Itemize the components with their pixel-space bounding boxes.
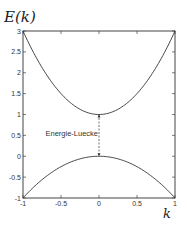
y-tick-label: 2.5	[11, 48, 21, 55]
y-tick-label: 0	[17, 153, 21, 160]
band-structure-chart: E(k) -1-0.500.51-1-0.500.511.522.53Energ…	[0, 0, 187, 232]
upper-band-curve	[23, 31, 175, 115]
y-axis-label-text: E(k)	[3, 8, 36, 26]
x-tick-label: 0	[97, 200, 101, 207]
y-tick-label: 2	[17, 69, 21, 76]
y-tick-label: 1	[17, 111, 21, 118]
lower-band-curve	[23, 156, 175, 198]
gap-arrow-bottom-icon	[98, 153, 101, 156]
y-tick-label: 0.5	[11, 132, 21, 139]
y-tick-label: -1	[15, 195, 21, 202]
gap-arrow-top-icon	[98, 115, 101, 118]
plot-area: -1-0.500.51-1-0.500.511.522.53Energie-Lu…	[9, 28, 177, 222]
y-axis-label: E(k)	[3, 8, 36, 26]
x-axis-label-text: k	[163, 206, 171, 221]
y-tick-label: 1.5	[11, 90, 21, 97]
y-tick-label: -0.5	[9, 174, 21, 181]
y-tick-label: 3	[17, 28, 21, 35]
x-tick-label: 1	[173, 200, 177, 207]
energy-gap-label: Energie-Luecke	[45, 129, 98, 138]
x-tick-label: 0.5	[132, 200, 142, 207]
x-tick-label: -0.5	[55, 200, 67, 207]
